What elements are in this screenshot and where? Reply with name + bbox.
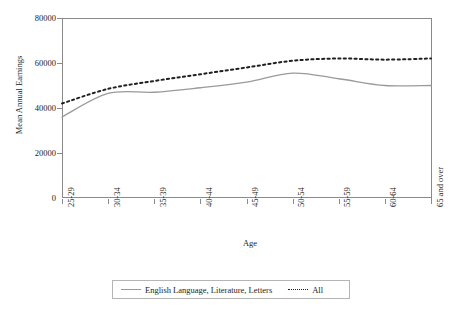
plot-area <box>62 18 432 198</box>
x-axis-tick-label: 25-29 <box>66 187 76 207</box>
y-axis-tick-mark <box>57 63 62 64</box>
x-axis-tick-mark <box>339 199 340 204</box>
x-axis-tick-mark <box>431 199 432 204</box>
y-axis-tick-mark <box>57 108 62 109</box>
y-axis-tick-label: 0 <box>18 194 56 203</box>
legend-entry-all: All <box>288 285 323 295</box>
legend-label-all: All <box>312 285 323 295</box>
y-axis-tick-label: 80000 <box>18 14 56 23</box>
x-axis-tick-mark <box>154 199 155 204</box>
x-axis-tick-label: 40-44 <box>204 187 214 207</box>
legend-swatch-solid-line-icon <box>121 289 141 290</box>
chart-legend: English Language, Literature, Letters Al… <box>112 280 350 299</box>
legend-entry-english-language: English Language, Literature, Letters <box>121 285 272 295</box>
x-axis-tick-mark <box>385 199 386 204</box>
y-axis-tick-label-text: 20000 <box>18 149 56 158</box>
y-axis-tick-label: 40000 <box>18 104 56 113</box>
y-axis-tick-label-text: 40000 <box>18 104 56 113</box>
x-axis-tick-label: 60-64 <box>388 187 398 207</box>
y-axis-tick-label-text: 60000 <box>18 59 56 68</box>
x-axis-tick-mark <box>293 199 294 204</box>
y-axis-tick-mark <box>57 18 62 19</box>
plot-right-border <box>431 18 432 199</box>
x-axis-tick-label: 55-59 <box>342 187 352 207</box>
y-axis-tick-label-text: 80000 <box>18 14 56 23</box>
x-axis-tick-label: 65 and over <box>435 167 445 207</box>
x-axis-tick-label: 30-34 <box>112 187 122 207</box>
x-axis-tick-label: 35-39 <box>158 187 168 207</box>
y-axis-tick-label: 20000 <box>18 149 56 158</box>
y-axis-tick-label: 60000 <box>18 59 56 68</box>
x-axis-title: Age <box>205 238 295 248</box>
y-axis-tick-mark <box>57 153 62 154</box>
x-axis-tick-mark <box>247 199 248 204</box>
x-axis-tick-label: 50-54 <box>296 187 306 207</box>
x-axis-tick-mark <box>108 199 109 204</box>
plot-top-border <box>62 18 432 19</box>
x-axis-tick-mark <box>200 199 201 204</box>
legend-label-english-language: English Language, Literature, Letters <box>145 285 272 295</box>
y-axis-tick-label-text: 0 <box>18 194 56 203</box>
legend-swatch-dotted-line-icon <box>288 289 308 290</box>
chart-container: Mean Annual Earnings 0200004000060000800… <box>0 0 450 313</box>
x-axis-tick-mark <box>62 199 63 204</box>
y-axis-title: Mean Annual Earnings <box>14 30 24 160</box>
x-axis-tick-label: 45-49 <box>250 187 260 207</box>
